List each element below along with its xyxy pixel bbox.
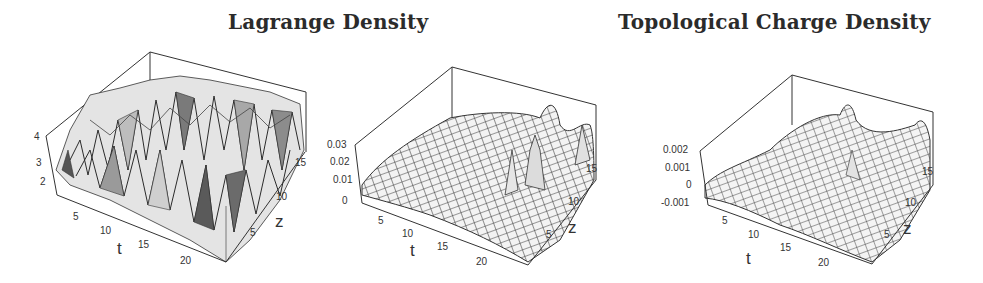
plot-panel-2: 0.03 0.02 0.01 0 5 10 15 20 t 5 10 15 z — [327, 67, 598, 267]
t-tick-15: 15 — [138, 239, 150, 250]
y-tick-5: 5 — [250, 227, 256, 238]
t-tick-5: 5 — [722, 215, 728, 226]
z-tick-0.01: 0.01 — [333, 174, 353, 185]
y-tick-10: 10 — [276, 191, 288, 202]
t-axis-label: t — [746, 249, 751, 268]
z-tick-0: 0 — [686, 179, 692, 190]
z-tick-4: 4 — [34, 131, 40, 142]
t-tick-15: 15 — [437, 241, 449, 252]
z-tick-2: 2 — [40, 176, 46, 187]
plot-panel-3: 0.002 0.001 0 -0.001 5 10 15 20 t 5 10 1… — [661, 75, 934, 268]
y-tick-5: 5 — [884, 229, 890, 240]
t-tick-15: 15 — [780, 242, 792, 253]
t-axis-label: t — [410, 241, 415, 260]
t-axis-label: t — [117, 239, 122, 258]
y-tick-10: 10 — [568, 196, 580, 207]
t-tick-10: 10 — [402, 228, 414, 239]
z-tick-0.02: 0.02 — [330, 156, 350, 167]
z-tick-3: 3 — [36, 157, 42, 168]
t-tick-20: 20 — [818, 257, 830, 268]
y-tick-5: 5 — [546, 229, 552, 240]
plot-panel-1: 4 3 2 5 10 15 20 t 5 10 15 z — [34, 52, 307, 266]
t-tick-10: 10 — [100, 225, 112, 236]
t-tick-10: 10 — [748, 229, 760, 240]
surface-rough — [56, 76, 304, 262]
z-tick-0.002: 0.002 — [663, 144, 688, 155]
t-tick-20: 20 — [180, 255, 192, 266]
z-tick-0.03: 0.03 — [327, 139, 347, 150]
plots-canvas: 4 3 2 5 10 15 20 t 5 10 15 z 0.03 0.02 0… — [0, 0, 983, 283]
y-tick-10: 10 — [905, 197, 917, 208]
surface-mesh-topological — [705, 105, 930, 262]
z-tick-neg-0.001: -0.001 — [661, 197, 690, 208]
y-tick-15: 15 — [922, 166, 934, 177]
z-tick-0: 0 — [342, 195, 348, 206]
surface-mesh-lagrange — [362, 105, 594, 262]
y-tick-15: 15 — [586, 163, 598, 174]
t-tick-5: 5 — [378, 215, 384, 226]
t-tick-20: 20 — [476, 256, 488, 267]
z-axis-label: z — [275, 212, 284, 231]
z-axis-label: z — [568, 218, 577, 237]
z-axis-label: z — [903, 219, 912, 238]
y-tick-15: 15 — [295, 157, 307, 168]
z-tick-0.001: 0.001 — [665, 162, 690, 173]
t-tick-5: 5 — [73, 211, 79, 222]
